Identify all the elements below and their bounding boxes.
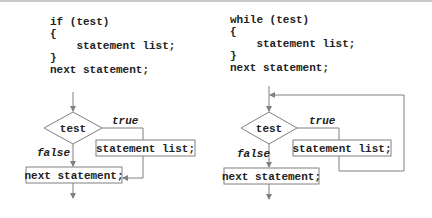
while-flowchart: test true statement list; false next sta…: [222, 86, 404, 199]
while-false-label: false: [237, 148, 270, 160]
while-next-label: next statement;: [222, 171, 321, 183]
flowcharts: test true statement list; false next sta…: [0, 0, 432, 218]
if-flowchart: test true statement list; false next sta…: [24, 92, 195, 198]
while-condition-label: test: [256, 123, 282, 135]
while-true-label: true: [309, 115, 336, 127]
while-body-label: statement list;: [292, 143, 391, 155]
if-true-label: true: [112, 115, 139, 127]
if-condition-label: test: [60, 123, 86, 135]
if-merge-line: [123, 156, 143, 178]
if-next-label: next statement;: [24, 170, 123, 182]
while-loop-back-line: [270, 95, 404, 171]
if-body-label: statement list;: [96, 143, 195, 155]
if-false-label: false: [37, 147, 70, 159]
if-true-branch-line: [102, 128, 143, 140]
while-true-branch-line: [297, 128, 339, 140]
